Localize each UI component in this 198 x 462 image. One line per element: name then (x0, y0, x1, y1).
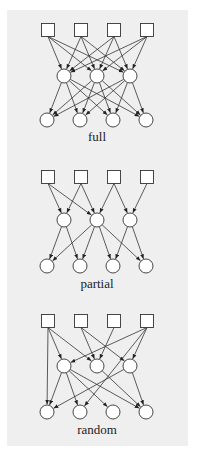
edge-arrow (132, 373, 143, 405)
input-square-node (75, 171, 88, 184)
edge-arrow (81, 37, 125, 71)
edge-arrow (71, 37, 147, 73)
output-circle-node (106, 113, 120, 127)
edge-arrow (81, 328, 124, 361)
input-square-node (141, 315, 154, 328)
input-square-node (75, 315, 88, 328)
input-square-node (42, 24, 55, 37)
edge-arrow (132, 227, 143, 259)
edge-arrow (133, 37, 147, 69)
output-circle-node (106, 405, 120, 419)
hidden-circle-node (57, 69, 71, 83)
panel-label: full (88, 129, 106, 144)
input-square-node (108, 315, 121, 328)
hidden-circle-node (123, 359, 137, 373)
panel-partial: partial (40, 171, 154, 292)
output-circle-node (139, 405, 153, 419)
hidden-circle-node (57, 213, 71, 227)
edge-arrow (133, 184, 147, 214)
edge-arrow (50, 373, 62, 405)
edge-arrow (102, 371, 140, 407)
hidden-circle-node (123, 69, 137, 83)
edge-arrow (48, 37, 123, 73)
nodes (40, 171, 154, 274)
panel-label: partial (80, 276, 114, 291)
panel-label: random (77, 422, 117, 437)
output-circle-node (73, 405, 87, 419)
network-diagram: full partial random (0, 0, 198, 462)
output-circle-node (73, 113, 87, 127)
input-square-node (108, 171, 121, 184)
edge-arrow (116, 227, 128, 259)
edge-arrow (70, 37, 114, 71)
hidden-circle-node (90, 213, 104, 227)
output-circle-node (40, 259, 54, 273)
output-circle-node (40, 405, 54, 419)
edge-arrow (71, 328, 147, 363)
output-circle-node (40, 113, 54, 127)
input-square-node (75, 24, 88, 37)
input-square-node (141, 24, 154, 37)
edge-arrow (103, 37, 147, 71)
output-circle-node (139, 259, 153, 273)
hidden-circle-node (90, 359, 104, 373)
edge-arrow (86, 81, 125, 115)
edge-arrow (100, 184, 114, 214)
edge-arrow (48, 184, 91, 216)
panel-full: full (40, 24, 154, 145)
edge-arrow (54, 79, 124, 116)
output-circle-node (106, 259, 120, 273)
panel-random: random (40, 315, 154, 438)
edge-arrow (54, 369, 124, 408)
input-square-node (42, 171, 55, 184)
input-square-node (108, 24, 121, 37)
hidden-circle-node (57, 359, 71, 373)
edge-arrow (114, 184, 127, 213)
hidden-circle-node (90, 69, 104, 83)
output-circle-node (73, 259, 87, 273)
edge-arrow (53, 81, 92, 115)
input-square-node (141, 171, 154, 184)
output-circle-node (139, 113, 153, 127)
edge-arrow (53, 225, 92, 261)
edge-arrow (132, 83, 143, 113)
edge-arrow (70, 369, 139, 408)
input-square-node (42, 315, 55, 328)
hidden-circle-node (123, 213, 137, 227)
edge-arrow (47, 328, 48, 405)
